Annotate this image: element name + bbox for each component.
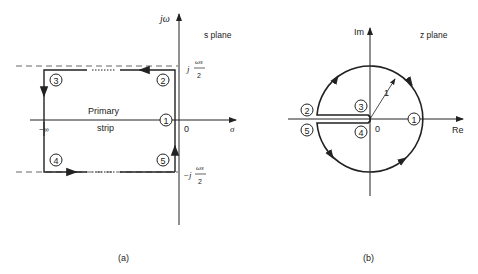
point-4: 4 (50, 154, 62, 166)
re-axis-label: Re (452, 125, 464, 135)
s-plane-label: s plane (204, 30, 232, 40)
sigma-label: σ (230, 124, 235, 134)
lower-limit-j: −j (183, 170, 192, 180)
z-plane-diagram: 1 1 2 3 4 5 Im z plane Re 0 (b) (288, 27, 464, 263)
lower-limit-denominator: 2 (198, 178, 202, 185)
point-2: 2 (157, 74, 169, 86)
primary-label: Primary (88, 106, 119, 116)
svg-text:1: 1 (163, 116, 168, 126)
im-axis-label: Im (354, 27, 364, 37)
origin-label: 0 (375, 124, 380, 134)
strip-label: strip (97, 123, 114, 133)
radius-label: 1 (384, 88, 389, 98)
svg-text:4: 4 (358, 128, 363, 138)
point-5: 5 (301, 124, 313, 136)
caption-b: (b) (363, 253, 374, 263)
upper-limit-j: j (186, 64, 190, 74)
point-4: 4 (355, 126, 367, 138)
caption-a: (a) (118, 253, 129, 263)
z-plane-label: z plane (420, 30, 448, 40)
upper-limit-denominator: 2 (197, 72, 201, 79)
neg-infinity-label: −∞ (39, 125, 49, 134)
figure: 1 2 3 4 5 jω s plane σ 0 −∞ Primary stri… (0, 0, 478, 274)
s-plane-diagram: 1 2 3 4 5 jω s plane σ 0 −∞ Primary stri… (16, 13, 236, 263)
svg-text:5: 5 (304, 126, 309, 136)
arrow-icon (403, 158, 406, 160)
radius-line (370, 79, 395, 119)
origin-label: 0 (184, 124, 189, 134)
svg-text:3: 3 (358, 102, 363, 112)
point-1: 1 (160, 114, 172, 126)
jw-axis-label: jω (158, 13, 170, 24)
point-2: 2 (301, 104, 313, 116)
point-5: 5 (157, 154, 169, 166)
arrow-icon (331, 155, 333, 158)
point-3: 3 (355, 100, 367, 112)
svg-text:2: 2 (304, 106, 309, 116)
svg-text:3: 3 (53, 76, 58, 86)
svg-text:5: 5 (160, 156, 165, 166)
point-3: 3 (50, 74, 62, 86)
arrow-icon (336, 76, 338, 79)
upper-limit-numerator: ωs (195, 58, 203, 66)
svg-text:1: 1 (411, 115, 416, 125)
contour (44, 70, 175, 172)
point-1: 1 (408, 113, 420, 125)
svg-text:4: 4 (53, 156, 58, 166)
lower-limit-numerator: ωs (196, 164, 204, 172)
svg-text:2: 2 (160, 76, 165, 86)
